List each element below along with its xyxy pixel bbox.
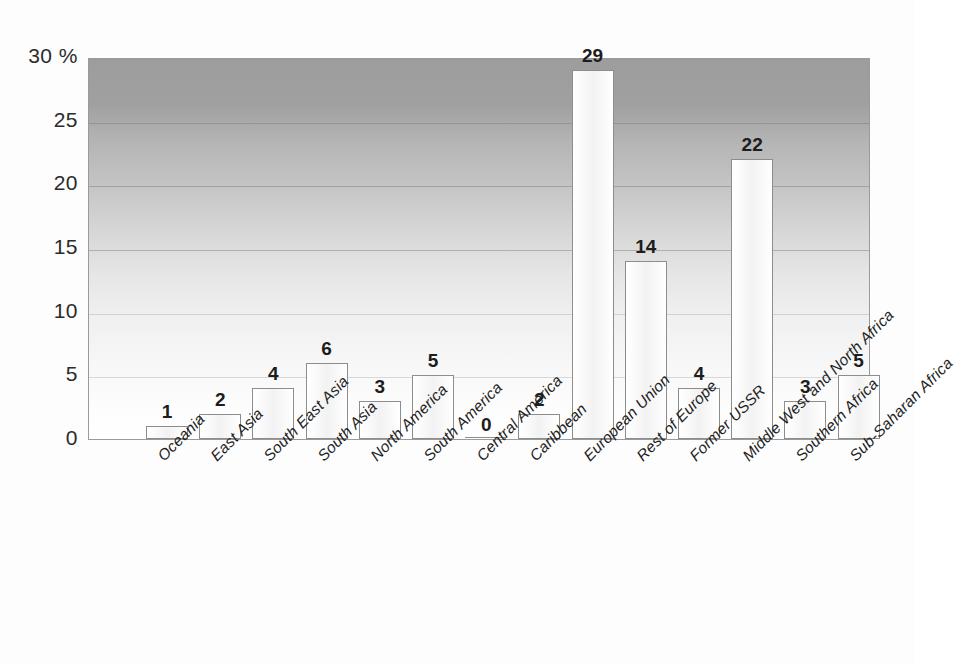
- gridline-25: [89, 123, 869, 124]
- bar-value-label-5: 5: [398, 350, 468, 372]
- bar-value-label-8: 29: [558, 45, 628, 67]
- bar-value-label-3: 6: [292, 338, 362, 360]
- bar-value-label-11: 22: [717, 134, 787, 156]
- bar-value-label-2: 4: [238, 363, 308, 385]
- y-tick-label-20: 20: [0, 171, 78, 195]
- plot-area: 12463502291442235: [88, 58, 870, 440]
- bar-value-label-4: 3: [345, 376, 415, 398]
- y-tick-label-30: 30 %: [0, 44, 78, 68]
- bar-value-label-10: 4: [664, 363, 734, 385]
- bar-european-union: [572, 70, 614, 439]
- bar-value-label-1: 2: [185, 389, 255, 411]
- y-tick-label-10: 10: [0, 299, 78, 323]
- y-tick-label-15: 15: [0, 235, 78, 259]
- y-tick-label-25: 25: [0, 108, 78, 132]
- y-tick-label-5: 5: [0, 362, 78, 386]
- x-axis: OceaniaEast AsiaSouth East AsiaSouth Asi…: [0, 446, 915, 661]
- bar-value-label-9: 14: [611, 236, 681, 258]
